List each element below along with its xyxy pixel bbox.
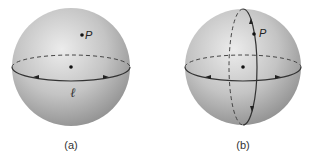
sphere-diagram: P ℓ (a) P (b) bbox=[0, 0, 315, 159]
point-p-label: P bbox=[259, 27, 267, 39]
caption-a: (a) bbox=[64, 139, 77, 151]
figure-b: P (b) bbox=[185, 9, 301, 151]
point-p-dot bbox=[252, 32, 256, 36]
figure-a: P ℓ (a) bbox=[12, 8, 130, 151]
point-p-label: P bbox=[85, 29, 93, 41]
center-point bbox=[241, 65, 245, 69]
caption-b: (b) bbox=[236, 139, 249, 151]
center-point bbox=[69, 65, 73, 69]
point-p-dot bbox=[80, 33, 84, 37]
line-l-label: ℓ bbox=[70, 85, 76, 100]
